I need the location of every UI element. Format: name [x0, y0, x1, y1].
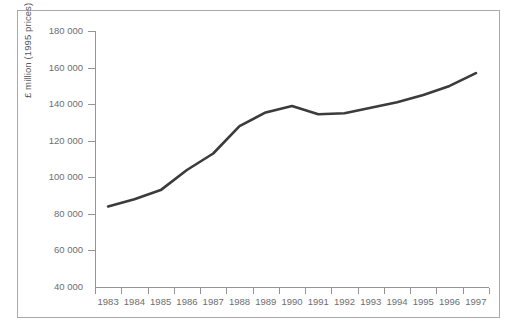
x-tick-mark	[384, 288, 385, 294]
y-tick-mark	[88, 250, 96, 251]
x-tick-mark	[121, 288, 122, 294]
x-tick-mark	[200, 288, 201, 294]
x-tick-mark	[279, 288, 280, 294]
x-tick-mark	[436, 288, 437, 294]
x-tick-mark	[305, 288, 306, 294]
x-tick-mark	[489, 288, 490, 294]
x-tick-mark	[148, 288, 149, 294]
y-tick-mark	[88, 104, 96, 105]
x-tick-mark	[358, 288, 359, 294]
data-line	[108, 73, 476, 206]
x-tick-mark	[410, 288, 411, 294]
x-tick-label: 1997	[456, 297, 496, 307]
chart-plot-area: £ million (1995 prices) 180 000160 00014…	[0, 0, 514, 332]
y-tick-mark	[88, 214, 96, 215]
x-tick-mark	[253, 288, 254, 294]
y-tick-mark	[88, 31, 96, 32]
y-tick-mark	[88, 141, 96, 142]
x-tick-mark	[463, 288, 464, 294]
x-tick-mark	[174, 288, 175, 294]
x-tick-mark	[95, 288, 96, 294]
x-tick-mark	[226, 288, 227, 294]
y-tick-mark	[88, 177, 96, 178]
y-tick-mark	[88, 68, 96, 69]
line-series	[0, 0, 514, 332]
x-tick-mark	[331, 288, 332, 294]
